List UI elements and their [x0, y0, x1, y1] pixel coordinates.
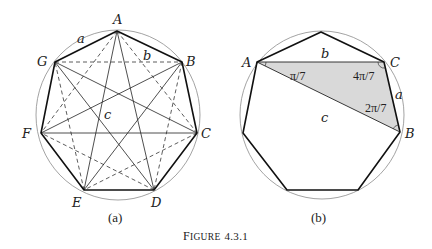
- short-diagonals-b: [41, 31, 197, 190]
- edge-label-b: b: [321, 46, 329, 61]
- panel-b-sublabel: (b): [311, 210, 326, 225]
- edge-label-a: a: [395, 87, 403, 102]
- caption-smallcaps: IGURE: [190, 232, 221, 242]
- circumscribed-circle: [36, 30, 200, 200]
- edge-label-a: a: [77, 31, 85, 46]
- panel-b: A C B b a c π/7 4π/7 2π/7 (b): [240, 31, 415, 225]
- vertex-label-A: A: [112, 12, 122, 27]
- long-diagonals-c: [41, 31, 197, 190]
- vertex-label-B: B: [404, 126, 415, 141]
- vertex-label-C: C: [201, 126, 211, 141]
- edge-label-b: b: [143, 48, 151, 63]
- angle-label-A: π/7: [290, 69, 305, 83]
- figure-canvas: A B C D E F G a b c (a) A C B b a c π/7 …: [0, 0, 432, 249]
- edge-label-c: c: [104, 107, 112, 122]
- vertex-label-G: G: [37, 54, 47, 69]
- heptagon-sides-a: [41, 31, 197, 190]
- caption-number: 4.3.1: [225, 230, 249, 242]
- vertex-label-C: C: [390, 55, 400, 70]
- panel-a: A B C D E F G a b c (a): [21, 12, 211, 225]
- vertex-label-E: E: [71, 195, 82, 210]
- angle-label-B: 2π/7: [365, 101, 386, 115]
- panel-a-sublabel: (a): [108, 210, 122, 225]
- angle-label-C: 4π/7: [353, 69, 374, 83]
- vertex-label-B: B: [185, 54, 196, 69]
- vertex-label-A: A: [241, 55, 251, 70]
- edge-label-c: c: [321, 110, 329, 125]
- figure-caption: FIGURE4.3.1: [183, 229, 248, 243]
- vertex-label-F: F: [21, 126, 32, 141]
- caption-initial: F: [183, 229, 190, 243]
- vertex-label-D: D: [150, 195, 162, 210]
